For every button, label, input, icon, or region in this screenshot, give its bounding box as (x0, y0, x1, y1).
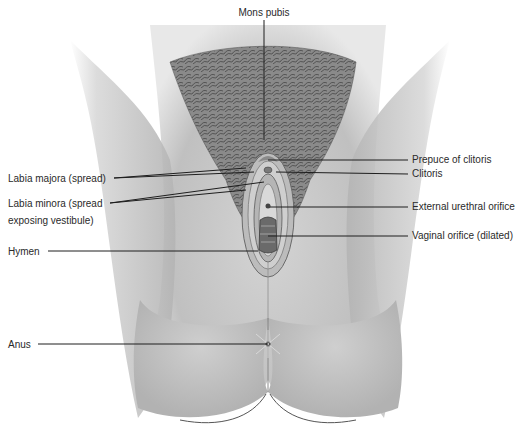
label-labia-minora-line2: exposing vestibule) (8, 214, 94, 227)
label-labia-majora: Labia majora (spread) (8, 172, 106, 185)
label-clitoris: Clitoris (412, 167, 443, 180)
anatomy-diagram: Mons pubis Prepuce of clitoris Clitoris … (0, 0, 518, 440)
leader-clitoris (276, 172, 408, 174)
label-mons-pubis: Mons pubis (238, 6, 289, 19)
leader-labia-minora-b (110, 182, 264, 203)
label-external-urethral-orifice: External urethral orifice (412, 200, 515, 213)
label-labia-minora-line1: Labia minora (spread (8, 197, 103, 210)
leader-labia-minora-a (110, 190, 246, 203)
label-hymen: Hymen (8, 245, 40, 258)
label-prepuce-of-clitoris: Prepuce of clitoris (412, 153, 491, 166)
label-vaginal-orifice: Vaginal orifice (dilated) (412, 229, 513, 242)
label-anus: Anus (8, 338, 31, 351)
